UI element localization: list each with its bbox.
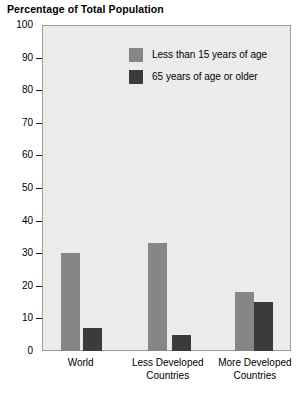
- y-axis-tick-label: 100: [16, 18, 33, 31]
- x-axis-tick-label-line: More Developed: [200, 356, 306, 369]
- chart-title: Percentage of Total Population: [7, 3, 164, 15]
- legend-label-old: 65 years of age or older: [152, 71, 258, 82]
- x-axis-labels: WorldLess DevelopedCountriesMore Develop…: [42, 356, 291, 396]
- y-axis-tick-label: 60: [22, 148, 33, 161]
- y-axis-tick-label: 40: [22, 214, 33, 227]
- legend-item-young: Less than 15 years of age: [129, 45, 289, 64]
- y-axis-tick-label: 30: [22, 246, 33, 259]
- bar-young: [148, 243, 167, 351]
- bar-young: [61, 253, 80, 351]
- y-axis-tick-label: 80: [22, 83, 33, 96]
- y-axis-tick-label: 20: [22, 279, 33, 292]
- bar-young: [235, 292, 254, 351]
- legend-label-young: Less than 15 years of age: [152, 49, 267, 60]
- legend-swatch-young-icon: [129, 48, 143, 62]
- bar-old: [172, 335, 191, 351]
- legend-swatch-old-icon: [129, 70, 143, 84]
- y-axis-tick-label: 70: [22, 116, 33, 129]
- population-bar-chart: Percentage of Total Population 010203040…: [0, 0, 306, 398]
- y-axis-tick-label: 50: [22, 181, 33, 194]
- x-axis-tick-label-line: Countries: [200, 369, 306, 382]
- y-axis-tick-label: 90: [22, 51, 33, 64]
- bar-old: [254, 302, 273, 351]
- bar-old: [83, 328, 102, 351]
- legend-item-old: 65 years of age or older: [129, 67, 289, 86]
- y-axis: 0102030405060708090100: [0, 25, 42, 351]
- chart-legend: Less than 15 years of age 65 years of ag…: [129, 45, 289, 89]
- y-axis-tick-label: 10: [22, 311, 33, 324]
- x-axis-tick-label: More DevelopedCountries: [200, 356, 306, 382]
